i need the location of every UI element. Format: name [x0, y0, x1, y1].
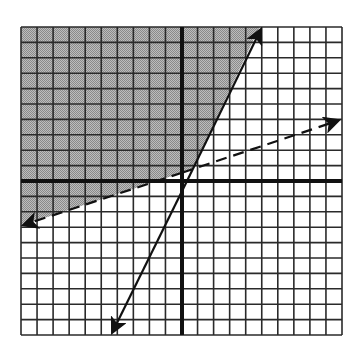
coordinate-plane-graph: [0, 0, 357, 346]
